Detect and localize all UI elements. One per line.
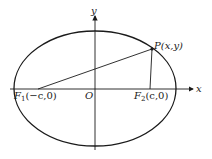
- segment-f2-p: [150, 49, 152, 89]
- origin-label: O: [85, 90, 93, 101]
- point-p-label: P(x,y): [153, 40, 183, 51]
- y-axis-label: y: [90, 5, 97, 16]
- ellipse-diagram: y x O P(x,y) F1(−c,0) F2(c,0): [0, 0, 212, 159]
- focus-1-label: F1(−c,0): [13, 90, 57, 103]
- x-axis-label: x: [196, 83, 202, 94]
- focus-2-label: F2(c,0): [133, 90, 168, 103]
